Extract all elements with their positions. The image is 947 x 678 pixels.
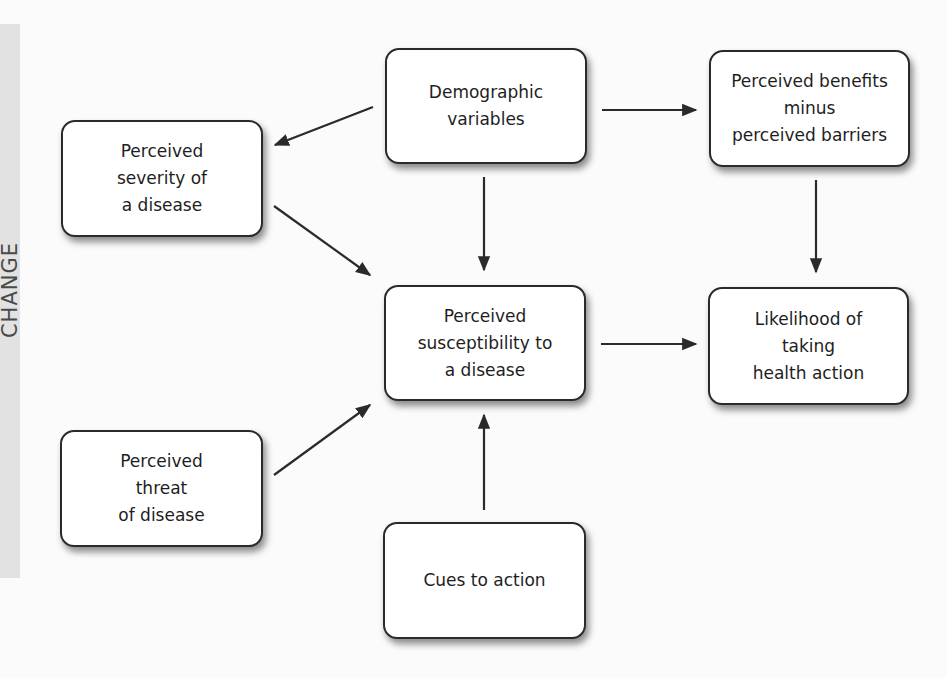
node-demographic-variables: Demographic variables — [385, 48, 587, 164]
node-label: Cues to action — [423, 567, 545, 594]
node-label: Perceived severity of a disease — [117, 138, 207, 219]
node-perceived-severity: Perceived severity of a disease — [61, 120, 263, 237]
node-perceived-threat: Perceived threat of disease — [60, 430, 263, 547]
arrow-threat-to-susceptibility — [274, 405, 370, 475]
node-label: Likelihood of taking health action — [753, 306, 865, 387]
node-label: Perceived threat of disease — [118, 448, 204, 529]
node-label: Perceived benefits minus perceived barri… — [731, 68, 888, 149]
node-label: Perceived susceptibility to a disease — [418, 303, 553, 384]
node-label: Demographic variables — [429, 79, 543, 133]
node-perceived-susceptibility: Perceived susceptibility to a disease — [384, 285, 586, 401]
arrow-demographic-to-severity — [275, 107, 373, 145]
node-cues-to-action: Cues to action — [383, 522, 586, 639]
node-likelihood-of-action: Likelihood of taking health action — [708, 287, 909, 405]
arrow-severity-to-susceptibility — [274, 206, 370, 275]
node-benefits-minus-barriers: Perceived benefits minus perceived barri… — [709, 50, 910, 167]
